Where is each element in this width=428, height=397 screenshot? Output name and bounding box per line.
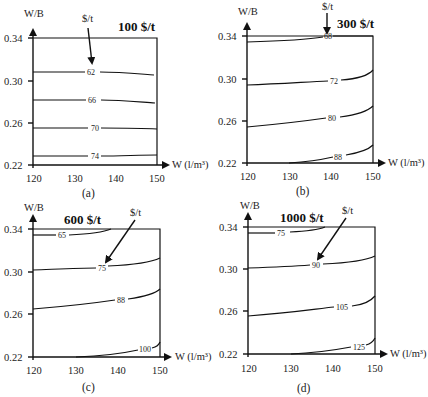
svg-text:0.22: 0.22 xyxy=(218,158,236,169)
y-tick-labels: 0.34 0.30 0.26 0.22 xyxy=(219,222,248,360)
arrow-icon xyxy=(106,220,135,262)
contours: 68 72 80 88 xyxy=(247,32,373,163)
arrow-label: $/t xyxy=(130,207,141,218)
svg-text:88: 88 xyxy=(334,153,342,162)
svg-text:120: 120 xyxy=(26,173,42,184)
x-axis-label: W (l/m³) xyxy=(175,351,212,363)
svg-text:120: 120 xyxy=(26,365,42,376)
svg-text:0.26: 0.26 xyxy=(4,118,22,129)
svg-text:0.26: 0.26 xyxy=(219,306,237,317)
svg-text:70: 70 xyxy=(91,124,99,133)
plot-frame xyxy=(248,227,375,354)
svg-text:0.30: 0.30 xyxy=(218,74,236,85)
svg-text:140: 140 xyxy=(325,363,341,374)
svg-text:0.22: 0.22 xyxy=(4,160,22,171)
svg-text:0.34: 0.34 xyxy=(4,224,23,235)
svg-text:0.34: 0.34 xyxy=(4,33,23,44)
svg-text:0.26: 0.26 xyxy=(218,116,236,127)
svg-text:0.26: 0.26 xyxy=(4,309,22,320)
panel-title: 600 $/t xyxy=(64,212,102,227)
svg-text:120: 120 xyxy=(240,171,256,182)
y-axis-label: W/B xyxy=(240,200,260,211)
panel-d: 0.34 0.30 0.26 0.22 120 130 140 150 W/B … xyxy=(219,200,427,395)
arrow-label: $/t xyxy=(342,205,353,216)
x-tick-labels: 120 130 140 150 xyxy=(241,363,383,374)
svg-text:72: 72 xyxy=(330,77,338,86)
svg-text:120: 120 xyxy=(241,363,257,374)
panel-caption: (c) xyxy=(82,381,95,394)
plot-frame xyxy=(247,36,373,163)
y-axis-label: W/B xyxy=(238,6,258,17)
x-axis-label: W (l/m³) xyxy=(388,157,425,169)
x-axis-label: W (l/m³) xyxy=(172,159,209,171)
arrow-label: $/t xyxy=(322,1,333,12)
svg-text:0.30: 0.30 xyxy=(219,264,237,275)
contours: 65 75 88 100 xyxy=(33,229,160,357)
svg-text:130: 130 xyxy=(283,363,299,374)
svg-text:74: 74 xyxy=(91,152,99,161)
arrow-label: $/t xyxy=(82,13,93,24)
svg-text:65: 65 xyxy=(58,231,66,240)
svg-text:0.22: 0.22 xyxy=(4,352,22,363)
svg-text:68: 68 xyxy=(324,32,332,41)
svg-text:150: 150 xyxy=(365,171,381,182)
panel-title: 1000 $/t xyxy=(280,210,324,225)
svg-text:62: 62 xyxy=(87,68,95,77)
svg-text:0.34: 0.34 xyxy=(218,31,237,42)
svg-text:130: 130 xyxy=(67,173,83,184)
svg-text:0.30: 0.30 xyxy=(4,76,22,87)
panel-b: 0.34 0.30 0.26 0.22 120 130 140 150 W/B … xyxy=(218,1,425,198)
svg-text:0.34: 0.34 xyxy=(219,222,238,233)
svg-text:140: 140 xyxy=(323,171,339,182)
plot-frame xyxy=(33,229,160,357)
svg-text:100: 100 xyxy=(139,345,151,354)
svg-text:66: 66 xyxy=(88,96,96,105)
svg-text:75: 75 xyxy=(277,229,285,238)
svg-text:0.22: 0.22 xyxy=(219,349,237,360)
svg-text:125: 125 xyxy=(353,343,365,352)
svg-text:130: 130 xyxy=(68,365,84,376)
svg-text:80: 80 xyxy=(328,114,336,123)
panel-title: 100 $/t xyxy=(118,19,156,34)
svg-text:150: 150 xyxy=(152,365,168,376)
svg-text:0.30: 0.30 xyxy=(4,267,22,278)
svg-text:105: 105 xyxy=(336,303,348,312)
x-tick-labels: 120 130 140 150 xyxy=(26,173,165,184)
y-tick-labels: 0.34 0.30 0.26 0.22 xyxy=(4,33,33,171)
svg-text:140: 140 xyxy=(110,365,126,376)
y-tick-labels: 0.34 0.30 0.26 0.22 xyxy=(4,224,33,363)
x-tick-labels: 120 130 140 150 xyxy=(26,365,168,376)
svg-text:75: 75 xyxy=(98,264,106,273)
svg-text:150: 150 xyxy=(149,173,165,184)
panel-c: 0.34 0.30 0.26 0.22 120 130 140 150 W/B … xyxy=(4,202,212,394)
y-axis-label: W/B xyxy=(24,8,44,19)
panel-caption: (a) xyxy=(82,187,95,200)
panel-a: 0.34 0.30 0.26 0.22 120 130 140 150 W/B … xyxy=(4,8,209,200)
svg-text:88: 88 xyxy=(117,296,125,305)
svg-text:90: 90 xyxy=(312,261,320,270)
x-axis-label: W (l/m³) xyxy=(390,348,427,360)
figure: 0.34 0.30 0.26 0.22 120 130 140 150 W/B … xyxy=(0,0,428,397)
contours: 62 66 70 74 xyxy=(33,68,157,161)
svg-text:140: 140 xyxy=(108,173,124,184)
svg-text:130: 130 xyxy=(282,171,298,182)
svg-text:150: 150 xyxy=(367,363,383,374)
panel-title: 300 $/t xyxy=(337,16,375,31)
panel-caption: (d) xyxy=(297,382,311,395)
arrow-icon xyxy=(88,28,92,63)
y-axis-label: W/B xyxy=(24,202,44,213)
panel-caption: (b) xyxy=(296,185,310,198)
y-tick-labels: 0.34 0.30 0.26 0.22 xyxy=(218,31,247,169)
contours: 75 90 105 125 xyxy=(248,227,375,354)
x-tick-labels: 120 130 140 150 xyxy=(240,171,381,182)
